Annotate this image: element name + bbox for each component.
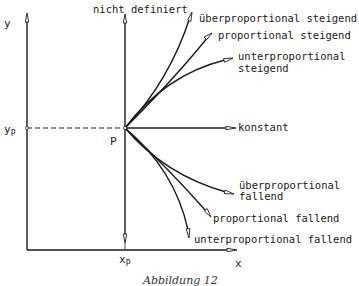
xp-label: xP [119,253,131,268]
arrow-over-rising-icon [188,12,193,22]
down-arrow-icon [123,234,126,243]
y-axis-arrow-icon [25,13,28,22]
arrow-under-rising-icon [224,58,234,62]
label-under-falling: unterproportional fallend [194,233,352,245]
up-arrow-icon [123,14,126,23]
yp-marker [26,127,29,130]
arrow-prop-falling-icon [204,209,211,218]
arrow-prop-rising-icon [204,33,212,40]
point-p-label: P [110,135,117,148]
label-over-rising: überproportional steigend [199,12,357,24]
x-axis-arrow-icon [227,248,237,251]
arrow-constant-icon [226,126,236,129]
point-p-marker [123,126,126,129]
curve-under-falling [125,128,188,230]
curve-over-falling [125,128,226,192]
label-undefined: nicht definiert [93,3,188,15]
curve-under-rising [125,60,225,128]
y-axis-label: y [4,17,11,30]
figure-caption: Abbildung 12 [142,274,218,286]
x-axis-label: x [235,257,242,270]
yp-label: yP [4,123,16,138]
arrow-over-falling-icon [224,190,234,194]
label-prop-rising: proportional steigend [218,29,351,41]
label-prop-falling: proportional fallend [213,212,339,224]
curve-over-rising [125,17,190,128]
label-constant: konstant [238,121,289,133]
elasticity-diagram: y x yP xP P nicht definiert überproporti… [0,0,359,286]
label-under-rising-2: steigend [238,62,289,74]
label-under-rising-1: unterproportional [238,50,345,62]
arrow-under-falling-icon [186,229,190,239]
label-over-falling-2: fallend [239,190,283,202]
